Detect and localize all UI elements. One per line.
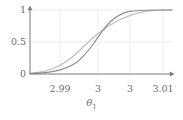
y-tick-label-0-5: 0.5 bbox=[4, 37, 26, 47]
x-axis-arrow-icon bbox=[170, 72, 175, 77]
sigmoid-plot-figure: 1 0.5 0 2.99 3 3 3.01 θ1 bbox=[0, 0, 183, 120]
x-axis-title-subscript: 1 bbox=[92, 103, 96, 111]
gridlines bbox=[30, 8, 172, 74]
x-tick-label-3-first: 3 bbox=[86, 84, 110, 94]
x-tick-label-3-01: 3.01 bbox=[143, 84, 183, 94]
x-tick-label-2-99: 2.99 bbox=[40, 84, 80, 94]
y-tick-label-1: 1 bbox=[8, 5, 26, 15]
y-axis-arrow-icon bbox=[28, 6, 33, 11]
x-tick-label-3-second: 3 bbox=[118, 84, 142, 94]
axis-lines bbox=[28, 6, 175, 77]
y-tick-label-0: 0 bbox=[8, 69, 26, 79]
x-axis-title: θ1 bbox=[0, 98, 183, 111]
